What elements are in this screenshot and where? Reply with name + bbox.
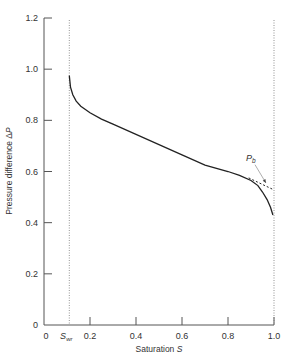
x-tick-label: 0.2	[84, 331, 97, 341]
pressure-curve	[69, 76, 273, 215]
reference-lines: Swr	[60, 20, 274, 342]
y-tick-label: 0.8	[25, 115, 38, 125]
x-tick-label: 0	[43, 331, 48, 341]
capillary-pressure-chart: 00.20.40.60.81.01.200.20.40.60.81.0 Swr …	[0, 0, 291, 364]
y-tick-label: 0.4	[25, 218, 38, 228]
pb-label: Pb	[246, 153, 256, 164]
y-tick-label: 1.2	[25, 13, 38, 23]
extrapolation-line	[249, 178, 273, 190]
x-axis-title: Saturation S	[136, 344, 183, 354]
x-tick-label: 0.6	[176, 331, 189, 341]
y-tick-label: 0	[33, 320, 38, 330]
x-tick-label: 1.0	[268, 331, 281, 341]
y-tick-label: 0.6	[25, 167, 38, 177]
y-tick-label: 1.0	[25, 64, 38, 74]
y-tick-label: 0.2	[25, 269, 38, 279]
x-tick-label: 0.4	[130, 331, 143, 341]
y-axis-title: Pressure difference ΔP	[4, 127, 14, 215]
series-group	[69, 76, 273, 215]
reference-line-label: Swr	[60, 331, 73, 342]
x-tick-label: 0.8	[222, 331, 235, 341]
